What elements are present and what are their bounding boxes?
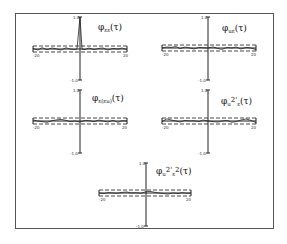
y-tick-label-bottom: -1.0 (198, 151, 206, 156)
x-tick-label-right: 20 (123, 53, 129, 58)
x-tick-label-left: -20 (33, 53, 40, 58)
panel-phi-e-eu: 1.0 -1.0 -20 20 φε(εu)(τ) (33, 88, 128, 156)
x-tick-label-left: -20 (162, 52, 169, 57)
y-tick-label-top: 1.0 (73, 15, 80, 20)
y-tick-label-bottom: -1.0 (136, 224, 144, 229)
panel-phi-ue: 1.0 -1.0 -20 20 φuε(τ) (162, 15, 257, 83)
y-tick-label-top: 1.0 (201, 15, 208, 20)
y-tick-label-top: 1.0 (73, 88, 80, 93)
y-tick-label-bottom: -1.0 (70, 78, 78, 83)
x-tick-label-right: 20 (251, 125, 257, 130)
x-tick-label-left: -20 (33, 125, 40, 130)
x-tick-label-left: -20 (99, 197, 106, 202)
panel-title: φε(εu)(τ) (92, 93, 124, 104)
panel-title: φuε(τ) (222, 23, 247, 34)
x-tick-label-right: 20 (251, 52, 257, 57)
x-tick-label-left: -20 (162, 125, 169, 130)
y-tick-label-bottom: -1.0 (70, 151, 78, 156)
correlation-figure: 1.0 -1.0 -20 20 φεε(τ) 1.0 -1.0 -20 20 φ… (0, 0, 287, 244)
y-tick-label-top: 1.0 (201, 88, 208, 93)
panel-phi-u2-e: 1.0 -1.0 -20 20 φu2'ε(τ) (162, 88, 257, 156)
x-tick-label-right: 20 (186, 197, 192, 202)
y-tick-label-top: 1.0 (139, 161, 146, 166)
panel-title: φu2'ε(τ) (221, 96, 252, 107)
panel-title: φu2'ε2(τ) (156, 166, 192, 177)
panel-phi-u2-e2: 1.0 -1.0 -20 20 φu2'ε2(τ) (99, 161, 192, 229)
panel-title: φεε(τ) (98, 22, 122, 33)
panel-phi-ee: 1.0 -1.0 -20 20 φεε(τ) (33, 15, 129, 83)
y-tick-label-bottom: -1.0 (198, 78, 206, 83)
x-tick-label-right: 20 (122, 125, 128, 130)
